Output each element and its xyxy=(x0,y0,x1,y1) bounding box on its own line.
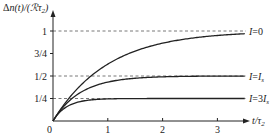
x-axis-arrow-icon xyxy=(243,119,250,124)
y-axis-label: Δn(t)/(ℛτ2) xyxy=(3,2,49,15)
series-label-2: I=Is xyxy=(248,71,264,84)
y-tick-label: 1/2 xyxy=(34,71,47,82)
y-tick-label: 1/4 xyxy=(34,93,47,104)
dashed-guides xyxy=(53,31,246,99)
series-label-1: I=0 xyxy=(248,26,263,37)
origin-label: 0 xyxy=(47,124,52,135)
y-tick-label: 3/4 xyxy=(34,48,47,59)
y-axis-arrow-icon xyxy=(51,10,56,17)
curves xyxy=(53,34,245,121)
x-tick-label: 2 xyxy=(160,124,165,135)
series-label-3: I=3Is xyxy=(248,93,269,106)
y-ticks: 13/41/21/4 xyxy=(34,26,53,105)
series-labels: I=0I=IsI=3Is xyxy=(248,26,269,107)
x-tick-label: 3 xyxy=(215,124,220,135)
y-tick-label: 1 xyxy=(42,26,47,37)
axes xyxy=(51,10,251,124)
chart: 13/41/21/4 123 I=0I=IsI=3Is Δn(t)/(ℛτ2) … xyxy=(0,0,279,140)
x-axis-label: t/τ2 xyxy=(252,115,265,128)
curve-series-3 xyxy=(53,99,245,122)
x-tick-label: 1 xyxy=(105,124,110,135)
